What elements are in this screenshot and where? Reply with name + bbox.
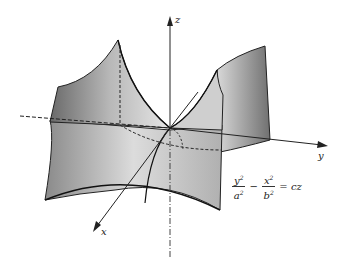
y-axis-label: y — [318, 150, 324, 161]
hyperbolic-paraboloid-diagram — [0, 0, 341, 258]
surface-left — [50, 40, 170, 128]
x-axis-label: x — [101, 226, 107, 237]
surface-right — [170, 70, 223, 130]
z-axis-label: z — [175, 14, 180, 25]
surface-front — [45, 120, 222, 210]
equation: y2 a2 − x2 b2 = cz — [232, 172, 302, 202]
